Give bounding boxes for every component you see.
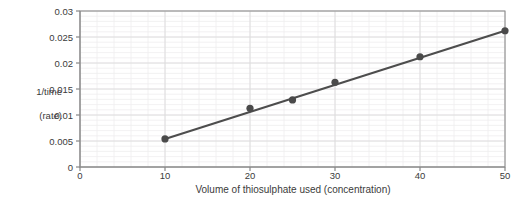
- chart-container: 1/time (rate) Volume of thiosulphate use…: [0, 0, 525, 205]
- data-point: [416, 53, 423, 60]
- data-point: [246, 105, 253, 112]
- data-point: [161, 135, 168, 142]
- data-point: [331, 79, 338, 86]
- data-point: [289, 96, 296, 103]
- plot-area: [0, 0, 525, 205]
- data-point: [501, 27, 508, 34]
